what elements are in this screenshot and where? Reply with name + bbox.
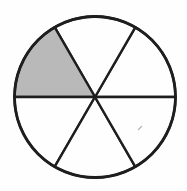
worksheet-page [0,0,187,191]
fraction-circle-figure [0,0,187,191]
